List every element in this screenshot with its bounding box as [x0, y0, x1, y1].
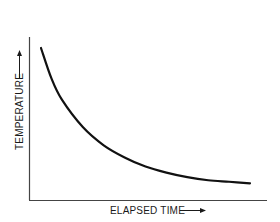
x-axis-label: ELAPSED TIME: [110, 205, 185, 216]
chart: TEMPERATURE ELAPSED TIME: [0, 0, 280, 222]
y-axis-label: TEMPERATURE: [14, 73, 25, 150]
x-axis-arrowhead-icon: [200, 208, 206, 213]
y-axis-arrowhead-icon: [17, 50, 22, 56]
temperature-curve: [41, 48, 250, 183]
